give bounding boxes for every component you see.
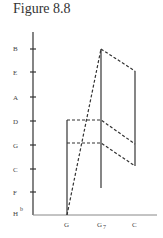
x-label-c: C [132,221,137,229]
y-label-c: C [13,166,18,174]
flat-sign: b [20,206,23,212]
y-label-e: E [13,69,17,77]
y-label-a: A [13,94,18,102]
y-label-d: D [13,118,18,126]
b-to-e-line [101,49,135,71]
x-tick-labels: G G 7 C [64,221,137,230]
chord-diagram: B E A D G C F H b G G 7 C [0,0,163,238]
y-label-f: F [13,189,17,197]
x-label-g: G [64,221,69,229]
x-label-g7: G [97,221,102,229]
y-label-b: B [13,45,18,53]
x-label-g7-sub: 7 [103,224,106,230]
y-tick-labels: B E A D G C F H b [13,45,23,218]
y-label-h-flat: H [13,210,18,218]
y-label-g: G [13,142,18,150]
h-flat-to-b-line [67,49,101,215]
